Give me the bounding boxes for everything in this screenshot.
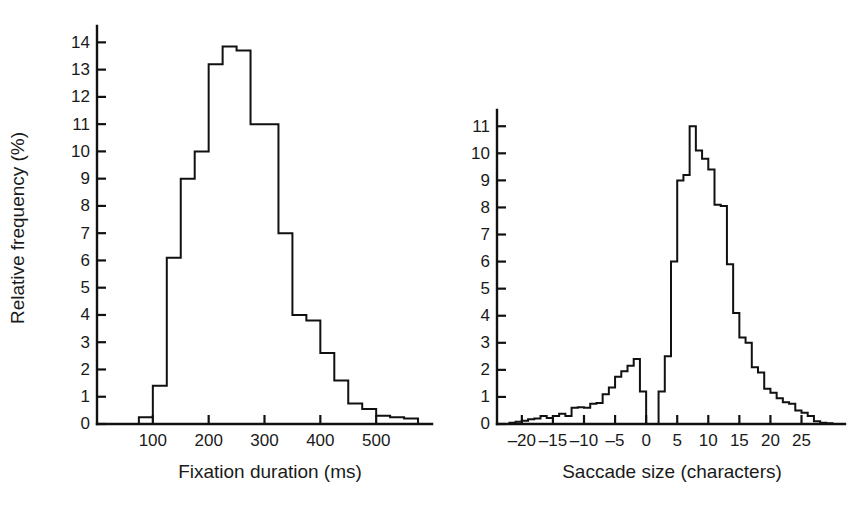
x-tick-label: 20 <box>761 431 780 450</box>
y-tick-label: 7 <box>481 225 490 244</box>
y-tick-label: 14 <box>71 33 90 52</box>
y-tick-label: 10 <box>471 144 490 163</box>
y-tick-label: 3 <box>81 333 90 352</box>
y-tick-label: 5 <box>481 279 490 298</box>
y-tick-label: 13 <box>71 60 90 79</box>
x-tick-label: 300 <box>250 431 278 450</box>
y-tick-label: 3 <box>481 333 490 352</box>
y-tick-label: 1 <box>481 387 490 406</box>
y-tick-label: 1 <box>81 387 90 406</box>
x-tick-label: 500 <box>362 431 390 450</box>
x-tick-label: 100 <box>139 431 167 450</box>
two-panel-histogram-figure: Relative frequency (%) 01234567891011121… <box>0 0 854 509</box>
y-tick-label: 2 <box>481 360 490 379</box>
y-tick-label: 8 <box>81 196 90 215</box>
y-tick-label: 5 <box>81 278 90 297</box>
y-tick-label: 4 <box>481 306 490 325</box>
y-tick-label: 7 <box>81 224 90 243</box>
x-tick-label: –15 <box>539 431 567 450</box>
y-axis-title: Relative frequency (%) <box>7 132 28 324</box>
y-tick-label: 11 <box>472 117 490 136</box>
y-tick-label: 9 <box>481 171 490 190</box>
y-tick-label: 9 <box>81 169 90 188</box>
x-tick-label: –5 <box>606 431 625 450</box>
y-tick-label: 6 <box>481 252 490 271</box>
y-tick-label: 11 <box>72 115 90 134</box>
figure-canvas: Relative frequency (%) 01234567891011121… <box>0 0 854 509</box>
x-tick-label: –20 <box>508 431 536 450</box>
right-x-axis-title: Saccade size (characters) <box>562 461 782 482</box>
x-tick-label: 0 <box>641 431 650 450</box>
y-tick-label: 0 <box>81 414 90 433</box>
x-tick-label: 400 <box>306 431 334 450</box>
left-x-axis-title: Fixation duration (ms) <box>178 461 362 482</box>
y-tick-label: 0 <box>481 414 490 433</box>
x-tick-label: 25 <box>792 431 811 450</box>
y-tick-label: 6 <box>81 251 90 270</box>
y-tick-label: 10 <box>71 142 90 161</box>
x-tick-label: 200 <box>194 431 222 450</box>
x-tick-label: –10 <box>570 431 598 450</box>
x-tick-label: 10 <box>699 431 718 450</box>
figure-background <box>0 0 854 509</box>
y-tick-label: 4 <box>81 305 90 324</box>
x-tick-label: 5 <box>672 431 681 450</box>
x-tick-label: 15 <box>730 431 749 450</box>
y-tick-label: 2 <box>81 360 90 379</box>
y-tick-label: 12 <box>71 87 90 106</box>
y-tick-label: 8 <box>481 198 490 217</box>
